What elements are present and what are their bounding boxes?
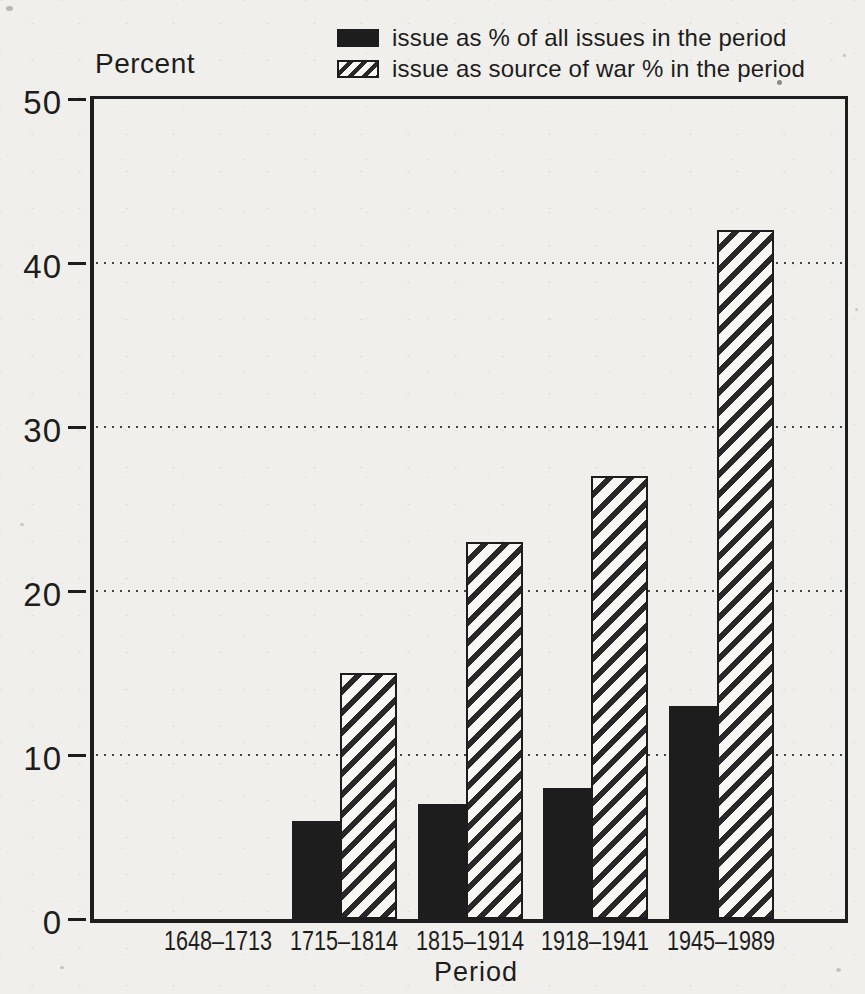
y-tick-label-10: 10 (2, 742, 62, 775)
y-tick-30 (68, 426, 86, 429)
legend-swatch-diagonal-hatch (337, 60, 379, 78)
scan-speck (20, 523, 24, 526)
y-tick-10 (68, 754, 86, 757)
legend: issue as % of all issues in the period i… (337, 22, 805, 84)
y-tick-label-20: 20 (2, 578, 62, 611)
bar-diagonal-hatch-1918–1941 (591, 476, 648, 919)
bar-solid-black-1715–1814 (292, 821, 340, 919)
y-tick-20 (68, 590, 86, 593)
legend-swatch-solid-black (337, 29, 379, 47)
bar-diagonal-hatch-1945–1989 (717, 230, 774, 919)
bar-diagonal-hatch-1715–1814 (340, 673, 397, 919)
y-tick-label-50: 50 (2, 86, 62, 119)
x-tick-label-1918–1941: 1918–1941 (541, 928, 649, 955)
legend-item-source-of-war: issue as source of war % in the period (337, 53, 805, 84)
legend-label: issue as source of war % in the period (392, 57, 805, 81)
bar-solid-black-1918–1941 (543, 788, 591, 919)
x-tick-label-1648–1713: 1648–1713 (164, 928, 272, 955)
scanned-chart-page: issue as % of all issues in the period i… (0, 0, 865, 994)
scan-speck (6, 6, 13, 11)
y-tick-0 (68, 918, 86, 921)
y-tick-40 (68, 262, 86, 265)
x-tick-label-1945–1989: 1945–1989 (667, 928, 775, 955)
scan-speck (777, 80, 782, 85)
x-tick-label-1815–1914: 1815–1914 (416, 928, 524, 955)
y-tick-50 (68, 98, 86, 101)
y-tick-label-0: 0 (2, 906, 62, 939)
bar-solid-black-1815–1914 (418, 804, 466, 919)
y-tick-label-40: 40 (2, 250, 62, 283)
bar-solid-black-1945–1989 (669, 706, 717, 919)
scan-speck (843, 54, 846, 57)
x-axis-title: Period (434, 959, 518, 986)
scan-speck (855, 308, 858, 311)
scan-speck (60, 966, 64, 969)
legend-item-all-issues: issue as % of all issues in the period (337, 22, 805, 53)
y-tick-label-30: 30 (2, 414, 62, 447)
plot-area: Period 010203040501648–17131715–18141815… (90, 96, 848, 923)
legend-label: issue as % of all issues in the period (392, 26, 786, 50)
bar-diagonal-hatch-1815–1914 (466, 542, 523, 919)
scan-speck (836, 968, 841, 972)
y-axis-title: Percent (95, 48, 195, 80)
x-tick-label-1715–1814: 1715–1814 (290, 928, 398, 955)
